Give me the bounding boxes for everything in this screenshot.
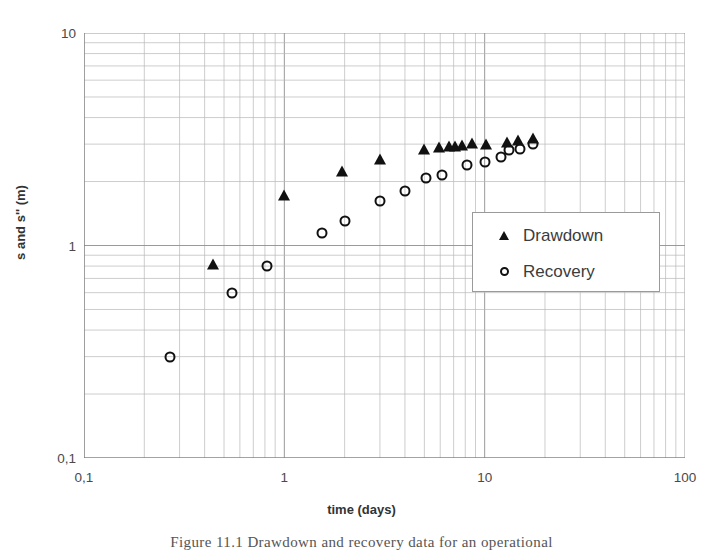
x-axis-title: time (days) (0, 502, 723, 517)
y-tick-label: 1 (40, 238, 76, 253)
y-tick-label: 0,1 (40, 451, 76, 466)
data-point-drawdown (480, 139, 492, 150)
data-point-drawdown (207, 258, 219, 269)
data-point-recovery (317, 227, 328, 238)
triangle-marker-icon (497, 228, 511, 242)
data-point-recovery (479, 156, 490, 167)
data-point-recovery (262, 261, 273, 272)
legend-label-recovery: Recovery (523, 263, 595, 280)
legend-item-recovery: Recovery (497, 260, 595, 282)
data-point-recovery (421, 172, 432, 183)
figure-caption: Figure 11.1 Drawdown and recovery data f… (0, 534, 723, 551)
data-point-recovery (339, 216, 350, 227)
data-point-recovery (462, 159, 473, 170)
x-tick-label: 1 (281, 470, 289, 485)
data-point-recovery (504, 145, 515, 156)
data-point-drawdown (336, 165, 348, 176)
data-point-drawdown (278, 190, 290, 201)
data-point-recovery (436, 169, 447, 180)
data-point-recovery (399, 186, 410, 197)
legend-item-drawdown: Drawdown (497, 224, 603, 246)
data-point-recovery (227, 287, 238, 298)
data-point-recovery (165, 351, 176, 362)
x-tick-label: 100 (674, 470, 697, 485)
data-point-recovery (374, 195, 385, 206)
data-point-recovery (528, 139, 539, 150)
chart-legend: Drawdown Recovery (472, 212, 660, 292)
y-axis-title: s and s'' (m) (13, 143, 28, 303)
data-point-recovery (514, 143, 525, 154)
y-tick-label: 10 (40, 26, 76, 41)
data-point-drawdown (374, 154, 386, 165)
x-tick-label: 0,1 (75, 470, 94, 485)
circle-marker-icon (497, 264, 511, 278)
x-tick-label: 10 (477, 470, 492, 485)
legend-label-drawdown: Drawdown (523, 227, 603, 244)
data-point-drawdown (466, 138, 478, 149)
data-point-drawdown (418, 143, 430, 154)
